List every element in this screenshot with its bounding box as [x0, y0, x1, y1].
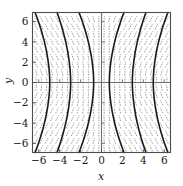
x-tick-label: 6: [161, 154, 168, 166]
x-tick-label: −2: [73, 154, 88, 166]
y-axis-title: y: [2, 77, 15, 85]
y-tick-label: −6: [13, 137, 29, 149]
y-tick-label: 6: [22, 15, 29, 27]
x-tick-label: −4: [52, 154, 68, 166]
y-tick-label: −2: [13, 96, 28, 108]
x-tick-label: 2: [119, 154, 126, 166]
y-tick-label: 4: [22, 36, 29, 48]
y-tick-label: 2: [22, 56, 29, 68]
x-tick-label: 0: [98, 154, 105, 166]
y-tick-label: −4: [13, 117, 29, 129]
slope-field-figure: −6−4−20246−6−4−20246 x y: [0, 0, 183, 186]
x-axis-title: x: [98, 170, 105, 183]
plot-canvas: −6−4−20246−6−4−20246 x y: [0, 0, 183, 186]
x-tick-label: 4: [140, 154, 147, 166]
x-tick-label: −6: [31, 154, 47, 166]
y-tick-label: 0: [22, 76, 29, 88]
